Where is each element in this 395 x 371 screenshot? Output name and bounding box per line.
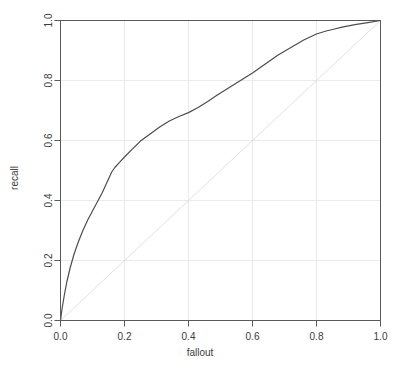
x-axis-tick-label: 1.0	[374, 331, 388, 342]
x-axis-tick-label: 0.2	[118, 331, 132, 342]
x-axis-tick-label: 0.0	[54, 331, 68, 342]
roc-chart-svg: 0.00.20.40.60.81.0 0.00.20.40.60.81.0 fa…	[0, 0, 395, 371]
x-axis-tick-label: 0.6	[246, 331, 260, 342]
y-axis-tick-label: 0.6	[43, 133, 54, 147]
y-axis-tick-label: 0.4	[43, 193, 54, 207]
y-axis-title: recall	[9, 166, 20, 190]
y-axis-tick-label: 1.0	[43, 13, 54, 27]
y-axis-tick-label: 0.2	[43, 253, 54, 267]
x-axis-title: fallout	[187, 347, 214, 358]
x-axis-tick-label: 0.8	[310, 331, 324, 342]
x-axis-tick-label: 0.4	[182, 331, 196, 342]
chart-background	[0, 0, 395, 371]
roc-plot-figure: 0.00.20.40.60.81.0 0.00.20.40.60.81.0 fa…	[0, 0, 395, 371]
y-axis-tick-label: 0.0	[43, 313, 54, 327]
y-axis-tick-label: 0.8	[43, 73, 54, 87]
